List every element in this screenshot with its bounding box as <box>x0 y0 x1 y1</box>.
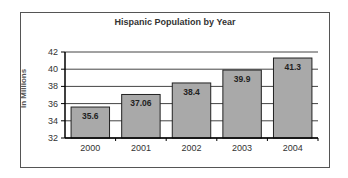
y-tick-label: 40 <box>48 64 58 74</box>
data-label: 35.6 <box>82 111 99 121</box>
x-tick-label: 2000 <box>80 143 100 153</box>
bar-chart: 32343638404235.6200037.06200138.4200239.… <box>0 0 348 178</box>
x-tick-label: 2001 <box>131 143 151 153</box>
data-label: 38.4 <box>183 87 200 97</box>
x-tick-label: 2004 <box>283 143 303 153</box>
y-tick-label: 42 <box>48 47 58 57</box>
y-tick-label: 34 <box>48 116 58 126</box>
y-tick-label: 36 <box>48 99 58 109</box>
x-tick-label: 2002 <box>181 143 201 153</box>
x-tick-label: 2003 <box>232 143 252 153</box>
data-label: 41.3 <box>284 62 301 72</box>
data-label: 37.06 <box>130 98 152 108</box>
data-label: 39.9 <box>234 74 251 84</box>
y-tick-label: 38 <box>48 81 58 91</box>
y-tick-label: 32 <box>48 133 58 143</box>
